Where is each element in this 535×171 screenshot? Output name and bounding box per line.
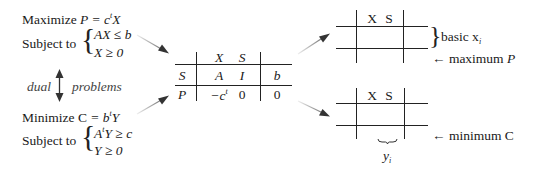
min-hline-2 bbox=[336, 125, 428, 126]
min-vline-2 bbox=[404, 88, 405, 139]
min-col-s: S bbox=[382, 89, 396, 103]
tableau-cell-a: A bbox=[212, 69, 226, 83]
tableau-cell-b: b bbox=[270, 69, 284, 83]
tableau-vline-1 bbox=[196, 52, 197, 101]
min-vline-1 bbox=[356, 88, 357, 139]
problems-label: problems bbox=[72, 80, 122, 94]
dual-subject-to: Subject to bbox=[22, 134, 76, 148]
basic-sub: i bbox=[479, 37, 481, 46]
tableau-col-s: S bbox=[235, 51, 249, 65]
min-label-var: C bbox=[505, 128, 514, 143]
dual-objective: Minimize C = btY bbox=[22, 110, 119, 125]
tableau-hline-1 bbox=[175, 64, 292, 65]
min-col-x: X bbox=[365, 89, 379, 103]
yi-label: yi bbox=[383, 149, 391, 165]
tableau-col-x: X bbox=[212, 51, 226, 65]
objective-tail: X bbox=[112, 12, 120, 27]
neg-c: −c bbox=[210, 88, 225, 103]
tableau-hline-2 bbox=[175, 85, 292, 86]
tableau-cell-zero-2: 0 bbox=[270, 88, 284, 102]
max-hline-2 bbox=[336, 48, 428, 49]
basic-brace-icon: { bbox=[429, 23, 441, 49]
tableau-cell-i: I bbox=[235, 69, 249, 83]
primal-objective: Maximize P = ctX bbox=[22, 12, 120, 27]
primal-subject-to: Subject to bbox=[22, 37, 76, 51]
max-hline-1 bbox=[336, 26, 428, 27]
dual-constraint-2: Y ≥ 0 bbox=[94, 144, 122, 158]
max-vline-1 bbox=[356, 10, 357, 63]
tableau-cell-zero-1: 0 bbox=[235, 88, 249, 102]
dual-constraint-1: AtY ≥ c bbox=[94, 126, 132, 141]
neg-c-sup: t bbox=[225, 87, 227, 96]
min-label-text: ← minimum bbox=[432, 128, 505, 143]
min-hline-1 bbox=[336, 103, 428, 104]
max-label-text: ← maximum bbox=[432, 51, 507, 66]
max-bottom-label: ← maximum P bbox=[432, 52, 515, 66]
arrow-primal-to-tableau-icon bbox=[137, 35, 169, 54]
arrow-tableau-to-min-icon bbox=[298, 101, 330, 117]
objective-prefix: Minimize bbox=[22, 110, 78, 125]
tableau-cell-neg-c: −ct bbox=[206, 88, 232, 103]
objective-tail: Y bbox=[112, 110, 120, 125]
tableau-row-label-s: S bbox=[175, 69, 189, 83]
arrow-tableau-to-max-icon bbox=[298, 34, 330, 55]
max-label-var: P bbox=[507, 51, 515, 66]
max-vline-2 bbox=[403, 10, 404, 63]
constraint-post: Y ≥ c bbox=[104, 126, 132, 141]
objective-prefix: Maximize bbox=[22, 12, 80, 27]
yi-sub: i bbox=[389, 156, 391, 165]
basic-label: basic xi bbox=[441, 30, 481, 46]
constraint-pre: A bbox=[94, 126, 102, 141]
arrow-dual-to-tableau-icon bbox=[137, 96, 169, 115]
underbrace-icon bbox=[378, 139, 397, 144]
tableau-row-label-p: P bbox=[175, 88, 189, 102]
basic-text: basic x bbox=[441, 29, 479, 44]
max-col-s: S bbox=[382, 12, 396, 26]
primal-constraint-2: X ≥ 0 bbox=[94, 46, 123, 60]
double-arrow-icon bbox=[56, 69, 64, 102]
dual-label: dual bbox=[27, 80, 51, 94]
max-col-x: X bbox=[365, 12, 379, 26]
tableau-vline-2 bbox=[260, 52, 261, 101]
primal-constraint-1: AX ≤ b bbox=[94, 28, 131, 42]
min-bottom-label: ← minimum C bbox=[432, 129, 514, 143]
